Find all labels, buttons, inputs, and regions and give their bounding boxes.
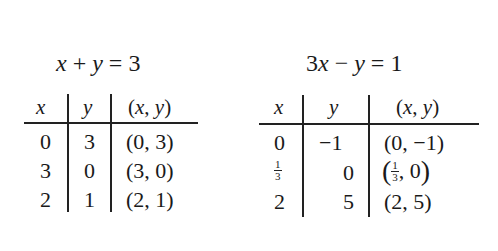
cell-pair: (2, 1) (126, 187, 174, 213)
header-x: x (274, 95, 283, 120)
cell-y: 0 (84, 158, 95, 184)
cell-y: −1 (319, 130, 342, 156)
column-divider (110, 94, 112, 212)
cell-x: 0 (274, 130, 285, 156)
cell-pair: (3, 0) (126, 158, 174, 184)
cell-x: 2 (40, 187, 51, 213)
equation-title: 3x − y = 1 (306, 50, 402, 77)
header-x: x (36, 95, 45, 120)
header-y: y (329, 95, 338, 120)
cell-pair-fraction: (13, 0) (382, 155, 430, 187)
header-pair: (x, y) (396, 95, 439, 120)
cell-x: 2 (274, 189, 285, 215)
cell-y: 0 (343, 160, 354, 186)
column-divider (302, 95, 304, 217)
cell-pair: (0, 3) (126, 129, 174, 155)
column-divider (67, 94, 69, 212)
cell-y: 3 (84, 129, 95, 155)
cell-x: 3 (40, 158, 51, 184)
equation-title: x + y = 3 (56, 50, 140, 77)
cell-y: 5 (343, 189, 354, 215)
column-divider (368, 95, 370, 217)
cell-pair: (0, −1) (384, 130, 444, 156)
cell-x: 0 (40, 129, 51, 155)
header-y: y (83, 95, 92, 120)
cell-pair: (2, 5) (384, 189, 432, 215)
header-pair: (x, y) (128, 95, 171, 120)
cell-y: 1 (84, 187, 95, 213)
cell-x-fraction: 13 (274, 159, 282, 182)
